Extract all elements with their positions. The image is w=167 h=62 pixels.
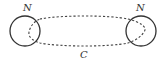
curve-label-c: C xyxy=(80,49,88,60)
left-circle-n xyxy=(10,16,40,46)
dashed-curve-c xyxy=(29,16,145,46)
right-label-n: N xyxy=(135,2,146,13)
diagram-canvas: N N C xyxy=(0,0,167,62)
right-circle-n xyxy=(126,16,156,46)
left-label-n: N xyxy=(22,2,33,13)
